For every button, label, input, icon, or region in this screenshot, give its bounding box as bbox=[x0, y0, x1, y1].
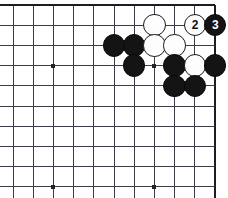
go-stone-white[interactable] bbox=[143, 34, 165, 56]
go-stone-black[interactable] bbox=[163, 75, 185, 97]
star-point bbox=[51, 185, 55, 189]
move-number-label: 2 bbox=[192, 19, 198, 31]
star-point bbox=[51, 64, 55, 68]
move-number-label: 3 bbox=[212, 19, 218, 31]
go-stone-white[interactable] bbox=[184, 54, 206, 76]
go-stone-black[interactable] bbox=[204, 54, 226, 76]
go-stone-black[interactable] bbox=[123, 34, 145, 56]
star-point bbox=[152, 185, 156, 189]
star-point bbox=[152, 64, 156, 68]
go-board-diagram: 23 bbox=[0, 0, 228, 198]
go-stone-black[interactable] bbox=[184, 75, 206, 97]
go-stone-black[interactable] bbox=[123, 54, 145, 76]
go-stone-white[interactable] bbox=[143, 14, 165, 36]
go-stone-black[interactable] bbox=[103, 34, 125, 56]
go-stone-black[interactable] bbox=[163, 54, 185, 76]
go-stone-white[interactable] bbox=[163, 34, 185, 56]
